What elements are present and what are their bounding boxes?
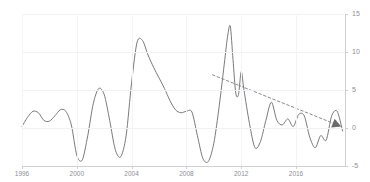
y-tick-label: 5: [352, 86, 356, 94]
y-tick-label: -5: [352, 162, 358, 170]
gridline-x: [22, 14, 23, 166]
x-tick-label: 2004: [124, 170, 138, 178]
chart-container: 199620002004200820122016 151050-5: [0, 0, 370, 182]
y-tick-label: 10: [352, 48, 360, 56]
gridline-x: [241, 14, 242, 166]
x-tick-mark: [77, 166, 78, 169]
x-tick-label: 1996: [15, 170, 29, 178]
y-tick-label: 0: [352, 124, 356, 132]
x-tick-label: 2016: [289, 170, 303, 178]
y-tick-mark: [345, 14, 348, 15]
x-tick-label: 2012: [234, 170, 248, 178]
chart-title: [12, 0, 212, 4]
x-tick-mark: [22, 166, 23, 169]
x-tick-label: 2000: [70, 170, 84, 178]
x-tick-label: 2008: [179, 170, 193, 178]
gridline-x: [186, 14, 187, 166]
main-series-line: [22, 25, 343, 162]
gridline-x: [296, 14, 297, 166]
y-tick-mark: [345, 90, 348, 91]
plot-area: [22, 14, 344, 166]
x-tick-mark: [132, 166, 133, 169]
gridline-x: [132, 14, 133, 166]
trend-line: [212, 75, 334, 124]
x-tick-mark: [241, 166, 242, 169]
x-axis-line: [22, 166, 346, 167]
y-tick-label: 15: [352, 10, 360, 18]
x-tick-mark: [296, 166, 297, 169]
x-tick-mark: [186, 166, 187, 169]
y-tick-mark: [345, 52, 348, 53]
gridline-x: [77, 14, 78, 166]
y-tick-mark: [345, 128, 348, 129]
y-tick-mark: [345, 166, 348, 167]
